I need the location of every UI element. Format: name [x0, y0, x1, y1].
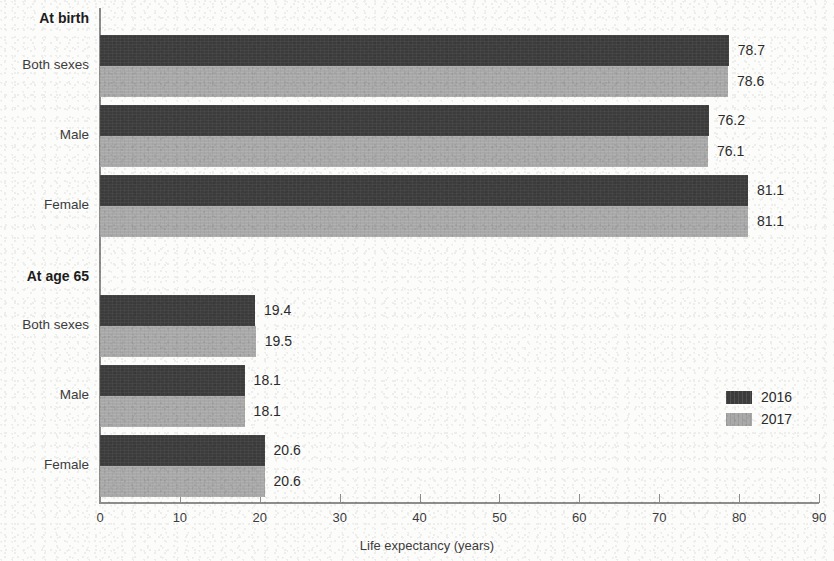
value-label-at-birth-female-2016: 81.1 — [757, 182, 784, 198]
bar-at-birth-male-2016 — [100, 105, 709, 136]
legend-swatch-2017 — [726, 413, 752, 426]
x-tick-label-80: 80 — [732, 510, 746, 525]
x-tick-50 — [499, 494, 500, 503]
category-label-at-age-65-female: Female — [44, 457, 89, 472]
x-tick-label-30: 30 — [332, 510, 346, 525]
bar-at-age-65-both-sexes-2017 — [100, 326, 256, 357]
x-axis-title: Life expectancy (years) — [0, 538, 834, 553]
bar-at-age-65-male-2016 — [100, 365, 245, 396]
bar-at-age-65-female-2016 — [100, 435, 265, 466]
value-label-at-age-65-male-2017: 18.1 — [254, 403, 281, 419]
value-label-at-age-65-female-2016: 20.6 — [274, 442, 301, 458]
legend-label-2016: 2016 — [761, 389, 792, 405]
legend-item-2016: 2016 — [726, 386, 792, 408]
category-label-at-birth-female: Female — [44, 197, 89, 212]
plot-area: 0102030405060708090 Life expectancy (yea… — [0, 0, 834, 561]
bar-at-birth-both-sexes-2016 — [100, 35, 729, 66]
legend-swatch-2016 — [726, 391, 752, 404]
life-expectancy-bar-chart: 0102030405060708090 Life expectancy (yea… — [0, 0, 834, 561]
value-label-at-age-65-both-sexes-2017: 19.5 — [265, 333, 292, 349]
x-tick-40 — [420, 494, 421, 503]
x-tick-label-40: 40 — [412, 510, 426, 525]
category-label-at-birth-male: Male — [60, 127, 89, 142]
x-tick-label-70: 70 — [652, 510, 666, 525]
x-tick-label-60: 60 — [572, 510, 586, 525]
value-label-at-age-65-male-2016: 18.1 — [254, 372, 281, 388]
x-tick-90 — [819, 494, 820, 503]
bar-at-birth-female-2016 — [100, 175, 748, 206]
x-tick-label-90: 90 — [812, 510, 826, 525]
x-tick-60 — [579, 494, 580, 503]
x-tick-label-0: 0 — [96, 510, 103, 525]
value-label-at-birth-female-2017: 81.1 — [757, 213, 784, 229]
x-tick-label-10: 10 — [173, 510, 187, 525]
x-tick-80 — [739, 494, 740, 503]
category-label-at-age-65-male: Male — [60, 387, 89, 402]
legend-label-2017: 2017 — [761, 411, 792, 427]
legend-item-2017: 2017 — [726, 408, 792, 430]
bar-at-age-65-male-2017 — [100, 396, 245, 427]
section-label-at-age-65: At age 65 — [27, 268, 89, 284]
x-tick-label-50: 50 — [492, 510, 506, 525]
value-label-at-birth-both-sexes-2017: 78.6 — [737, 73, 764, 89]
value-label-at-age-65-both-sexes-2016: 19.4 — [264, 302, 291, 318]
category-label-at-birth-both-sexes: Both sexes — [22, 57, 89, 72]
bar-at-birth-female-2017 — [100, 206, 748, 237]
value-label-at-age-65-female-2017: 20.6 — [274, 473, 301, 489]
value-label-at-birth-both-sexes-2016: 78.7 — [738, 42, 765, 58]
x-tick-30 — [340, 494, 341, 503]
bar-at-age-65-both-sexes-2016 — [100, 295, 255, 326]
bar-at-birth-both-sexes-2017 — [100, 66, 728, 97]
x-tick-label-20: 20 — [253, 510, 267, 525]
bar-at-age-65-female-2017 — [100, 466, 265, 497]
bar-at-birth-male-2017 — [100, 136, 708, 167]
category-label-at-age-65-both-sexes: Both sexes — [22, 317, 89, 332]
x-tick-70 — [659, 494, 660, 503]
section-label-at-birth: At birth — [39, 10, 89, 26]
x-axis-title-text: Life expectancy (years) — [360, 538, 494, 553]
value-label-at-birth-male-2017: 76.1 — [717, 143, 744, 159]
x-axis-line — [99, 502, 819, 504]
legend: 2016 2017 — [726, 386, 792, 430]
value-label-at-birth-male-2016: 76.2 — [718, 112, 745, 128]
